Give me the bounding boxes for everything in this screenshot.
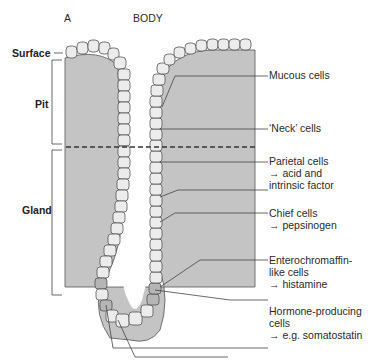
label-hormone-producing-cells: Hormone-producing cells → e.g. somatosta… xyxy=(269,305,362,341)
label-ecl-cells: Enterochromaffin- like cells → histamine xyxy=(269,254,352,290)
label-parietal-cells: Parietal cells → acid and intrinsic fact… xyxy=(269,155,334,191)
panel-letter: A xyxy=(64,12,71,24)
zone-label-surface: Surface xyxy=(12,47,51,59)
label-neck-cells: ‘Neck’ cells xyxy=(269,122,321,134)
zone-brackets xyxy=(52,53,63,295)
label-chief-cells: Chief cells → pepsinogen xyxy=(269,207,337,231)
zone-label-gland: Gland xyxy=(22,204,52,216)
zone-label-pit: Pit xyxy=(35,98,48,110)
label-mucous-cells: Mucous cells xyxy=(269,69,330,81)
region-title: BODY xyxy=(133,12,163,24)
gastric-gland-diagram: A BODY Surface Pit Gland Mucous cells ‘N… xyxy=(0,0,381,361)
